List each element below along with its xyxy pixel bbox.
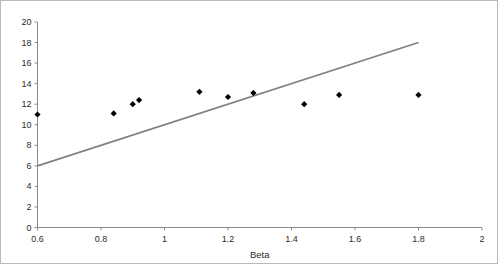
data-point-diamond — [225, 94, 231, 100]
data-point-diamond — [415, 92, 421, 98]
y-tick-label: 12 — [0, 100, 32, 109]
data-point-diamond — [301, 101, 307, 107]
y-tick-label: 2 — [0, 202, 32, 211]
data-point-diamond — [111, 110, 117, 116]
x-tick-label: 0.8 — [95, 235, 108, 244]
y-tick-label: 16 — [0, 59, 32, 68]
data-point-diamond — [336, 92, 342, 98]
y-tick-label: 6 — [0, 161, 32, 170]
y-tick-label: 14 — [0, 79, 32, 88]
y-tick-label: 4 — [0, 182, 32, 191]
data-point-diamond — [130, 101, 136, 107]
y-tick-label: 8 — [0, 141, 32, 150]
x-tick-label: 1.8 — [412, 235, 425, 244]
data-point-diamond — [34, 111, 40, 117]
chart-figure: 02468101214161820 0.60.811.21.41.61.82 B… — [0, 0, 498, 264]
x-axis-title: Beta — [250, 250, 270, 260]
trend-line-path — [38, 43, 419, 166]
y-tick-label: 20 — [0, 18, 32, 27]
x-tick-label: 1.2 — [222, 235, 235, 244]
scatter-plot-canvas — [0, 0, 498, 264]
data-point-markers — [34, 89, 421, 118]
x-tick-label: 0.6 — [31, 235, 44, 244]
data-point-diamond — [136, 97, 142, 103]
x-tick-label: 1.6 — [349, 235, 362, 244]
axis-lines — [38, 22, 483, 228]
x-tick-label: 1.4 — [285, 235, 298, 244]
y-tick-label: 0 — [0, 223, 32, 232]
x-tick-label: 1 — [162, 235, 167, 244]
x-tick-label: 2 — [479, 235, 484, 244]
y-tick-label: 18 — [0, 38, 32, 47]
y-tick-label: 10 — [0, 120, 32, 129]
trend-line — [38, 43, 419, 166]
data-point-diamond — [196, 89, 202, 95]
